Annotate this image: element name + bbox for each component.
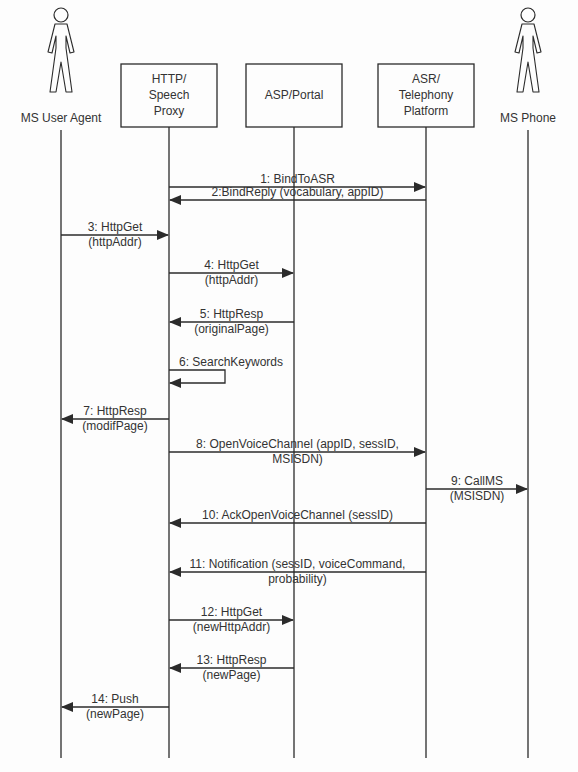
message-label: 1: BindToASR: [260, 172, 335, 186]
message-9: 9: CallMS(MSISDN): [426, 474, 527, 503]
message-label: (originalPage): [194, 322, 269, 336]
participant-asr: ASR/TelephonyPlatform: [378, 64, 474, 127]
actor-label: MS Phone: [500, 111, 556, 125]
message-label: 7: HttpResp: [83, 404, 147, 418]
message-7: 7: HttpResp(modifPage): [62, 404, 169, 433]
message-label: 11: Notification (sessID, voiceCommand,: [190, 557, 406, 571]
sequence-diagram: MS User AgentHTTP/SpeechProxyASP/PortalA…: [0, 0, 578, 772]
message-label: 10: AckOpenVoiceChannel (sessID): [202, 508, 393, 522]
self-message-arrow: [169, 370, 225, 383]
message-label: (newPage): [86, 707, 144, 721]
message-label: probability): [268, 572, 327, 586]
message-label: (MSISDN): [450, 489, 505, 503]
message-10: 10: AckOpenVoiceChannel (sessID): [170, 508, 426, 523]
message-13: 13: HttpResp(newPage): [170, 653, 294, 682]
message-label: 5: HttpResp: [200, 307, 264, 321]
participant-label: Telephony: [399, 88, 454, 102]
actor-label: MS User Agent: [21, 111, 102, 125]
message-12: 12: HttpGet(newHttpAddr): [169, 605, 293, 634]
message-14: 14: Push(newPage): [62, 692, 169, 721]
message-label: (newPage): [202, 668, 260, 682]
message-6: 6: SearchKeywords: [169, 355, 283, 383]
participant-asp: ASP/Portal: [246, 64, 342, 127]
message-3: 3: HttpGet(httpAddr): [61, 220, 168, 249]
message-label: (newHttpAddr): [193, 620, 270, 634]
message-label: (httpAddr): [205, 273, 258, 287]
participant-ua: MS User Agent: [21, 8, 102, 125]
message-11: 11: Notification (sessID, voiceCommand,p…: [170, 557, 426, 586]
message-label: 6: SearchKeywords: [179, 355, 283, 369]
participant-label: HTTP/: [152, 72, 187, 86]
participant-label: Speech: [149, 88, 190, 102]
message-label: 4: HttpGet: [204, 258, 259, 272]
message-label: (httpAddr): [88, 235, 141, 249]
message-8: 8: OpenVoiceChannel (appID, sessID,MSISD…: [169, 437, 425, 466]
message-label: MSISDN): [272, 452, 323, 466]
message-label: 13: HttpResp: [196, 653, 266, 667]
message-label: 9: CallMS: [451, 474, 503, 488]
participant-phone: MS Phone: [500, 8, 556, 125]
actor-icon: [48, 8, 74, 92]
participant-label: Platform: [404, 104, 449, 118]
message-5: 5: HttpResp(originalPage): [170, 307, 294, 336]
participant-label: Proxy: [154, 104, 185, 118]
message-label: 3: HttpGet: [88, 220, 143, 234]
participant-label: ASR/: [412, 72, 441, 86]
participant-label: ASP/Portal: [265, 88, 324, 102]
participant-proxy: HTTP/SpeechProxy: [121, 64, 217, 127]
message-label: 14: Push: [91, 692, 138, 706]
message-label: 2:BindReply (vocabulary, appID): [212, 185, 384, 199]
message-label: 12: HttpGet: [201, 605, 263, 619]
actor-icon: [515, 8, 541, 92]
message-4: 4: HttpGet(httpAddr): [169, 258, 293, 287]
message-label: (modifPage): [82, 419, 147, 433]
message-label: 8: OpenVoiceChannel (appID, sessID,: [196, 437, 399, 451]
